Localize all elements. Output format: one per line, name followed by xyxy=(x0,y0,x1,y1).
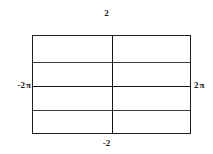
plot-frame xyxy=(32,35,191,134)
x-axis-max-label: 2π xyxy=(194,81,204,90)
x-axis-min-value: -2 xyxy=(18,80,26,90)
plot-figure: 2 -2π 2π -2 xyxy=(0,0,213,154)
pi-icon-left: π xyxy=(25,80,31,90)
x-axis-max-value: 2 xyxy=(194,80,199,90)
x-axis-min-label: -2π xyxy=(18,81,31,90)
pi-icon-right: π xyxy=(199,80,205,90)
y-axis-line xyxy=(112,36,113,133)
y-axis-max-label: 2 xyxy=(0,9,213,18)
y-axis-min-label: -2 xyxy=(0,139,213,148)
